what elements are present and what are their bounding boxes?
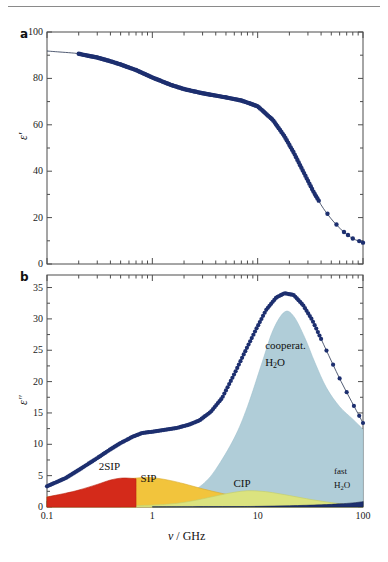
panel-a-data-point xyxy=(325,212,329,216)
figure-container: a b ε′ ε″ ν / GHz 0204060801000510152025… xyxy=(0,0,388,562)
panel-b-data-point xyxy=(331,363,335,367)
panel-a-data-point xyxy=(317,198,321,202)
panel-b-ytick-label: 20 xyxy=(7,376,43,387)
plot-svg-canvas xyxy=(0,0,388,562)
panel-a-data-point xyxy=(357,239,361,243)
panel-b-data-point xyxy=(319,337,323,341)
panel-a-data-point xyxy=(361,240,365,244)
panel-a-ytick-label: 100 xyxy=(7,26,43,37)
panel-a-data-point xyxy=(334,222,338,226)
panel-b-data-point xyxy=(361,421,365,425)
x-axis-tick-label: 1 xyxy=(132,510,172,521)
panel-a-plot xyxy=(47,32,365,264)
panel-b-ytick-label: 25 xyxy=(7,344,43,355)
panel-a-data-point xyxy=(346,233,350,237)
panel-b-data-point xyxy=(357,414,361,418)
x-axis-tick-label: 10 xyxy=(238,510,278,521)
panel-b-ytick-label: 10 xyxy=(7,438,43,449)
area-cooperat-h2o xyxy=(152,311,363,507)
x-axis-tick-label: 100 xyxy=(343,510,383,521)
annotation-sip: SIP xyxy=(141,472,157,485)
panel-b-ytick-label: 35 xyxy=(7,282,43,293)
annotation-cooperat-h2o-l2: H2O xyxy=(265,356,285,370)
annotation-fast-h2o-l2: H2O xyxy=(334,480,350,491)
panel-a-data-point xyxy=(351,236,355,240)
panel-b-data-point xyxy=(338,376,342,380)
panel-a-frame xyxy=(47,32,363,264)
x-axis-tick-label: 0.1 xyxy=(27,510,67,521)
panel-a-ytick-label: 0 xyxy=(7,258,43,269)
panel-b-data-point xyxy=(324,348,328,352)
panel-a-ytick-label: 80 xyxy=(7,72,43,83)
panel-b-ytick-label: 30 xyxy=(7,313,43,324)
panel-b-plot xyxy=(45,275,365,507)
annotation-cip: CIP xyxy=(233,477,250,490)
panel-b-data-point xyxy=(345,390,349,394)
panel-a-ytick-label: 40 xyxy=(7,165,43,176)
panel-b-data-point xyxy=(352,404,356,408)
panel-a-ytick-label: 20 xyxy=(7,212,43,223)
panel-a-ytick-label: 60 xyxy=(7,119,43,130)
panel-a-fit-curve xyxy=(47,51,363,243)
annotation-fast-h2o-l1: fast xyxy=(334,466,347,476)
annotation-cooperat-h2o-l1: cooperat. xyxy=(265,339,306,352)
panel-b-ytick-label: 15 xyxy=(7,407,43,418)
panel-b-ytick-label: 5 xyxy=(7,470,43,481)
annotation-2sip: 2SIP xyxy=(99,460,120,473)
panel-a-data-point xyxy=(342,230,346,234)
